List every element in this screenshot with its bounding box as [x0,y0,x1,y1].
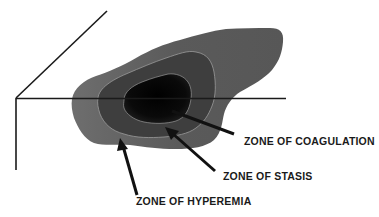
label-zone-coagulation: ZONE OF COAGULATION [244,135,375,147]
label-zone-hyperemia: ZONE OF HYPEREMIA [136,195,252,207]
label-zone-stasis: ZONE OF STASIS [223,170,313,182]
hyperemia-arrow [117,138,137,195]
burn-zones-diagram: ZONE OF COAGULATION ZONE OF STASIS ZONE … [0,0,379,217]
